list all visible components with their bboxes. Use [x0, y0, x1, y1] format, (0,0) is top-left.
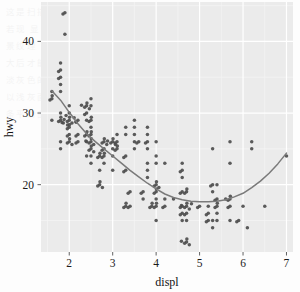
x-axis-title: displ: [155, 275, 179, 289]
plot-canvas: 234567203040 displhwy: [0, 0, 300, 292]
x-tick-label: 7: [284, 257, 290, 269]
scatter-plot-figure: 这是扫描页面背后透出的淡淡的文字内容 在图表区域后面若隐若现 显示出纸张的双面印…: [0, 0, 300, 292]
x-tick-label: 5: [197, 257, 203, 269]
plot-panel: [41, 2, 293, 252]
y-tick-label: 30: [23, 107, 35, 119]
y-tick-label: 40: [23, 35, 35, 47]
y-tick-label: 20: [23, 179, 35, 191]
x-tick-label: 3: [110, 257, 116, 269]
x-tick-label: 2: [66, 257, 72, 269]
x-tick-label: 4: [153, 257, 159, 269]
x-tick-label: 6: [240, 257, 246, 269]
y-axis-title: hwy: [2, 117, 16, 138]
